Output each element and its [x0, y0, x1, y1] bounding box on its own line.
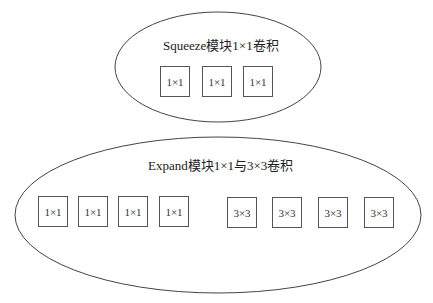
squeeze-conv-box: 1×1 [243, 66, 273, 97]
expand-conv-box-1x1: 1×1 [118, 196, 148, 227]
squeeze-conv-box: 1×1 [160, 66, 190, 97]
expand-conv-box-1x1: 1×1 [38, 196, 68, 227]
expand-module-title: Expand模块1×1与3×3卷积 [148, 155, 293, 174]
squeeze-conv-box: 1×1 [202, 66, 232, 97]
expand-conv-box-3x3: 3×3 [318, 197, 348, 228]
expand-conv-box-3x3: 3×3 [272, 197, 302, 228]
expand-conv-box-1x1: 1×1 [159, 196, 189, 227]
expand-conv-box-3x3: 3×3 [227, 197, 257, 228]
expand-conv-box-3x3: 3×3 [364, 197, 394, 228]
expand-conv-box-1x1: 1×1 [78, 196, 108, 227]
squeeze-module-title: Squeeze模块1×1卷积 [163, 35, 279, 54]
